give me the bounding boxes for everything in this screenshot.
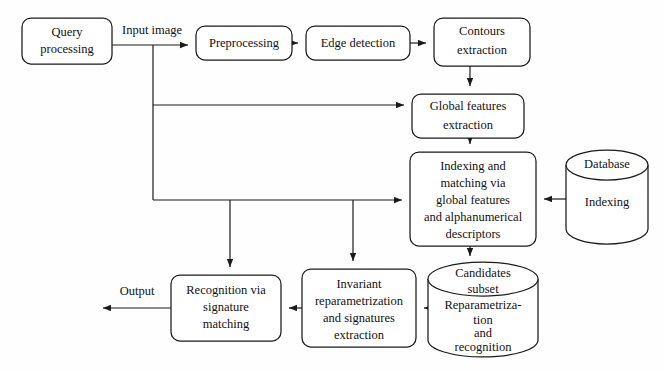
node-indexing-matching-line-0: Indexing and <box>440 159 506 173</box>
node-invariant-line-1: reparametrization <box>315 294 404 308</box>
edge-label-output: Output <box>120 284 155 298</box>
node-edge-detection-label: Edge detection <box>321 36 396 50</box>
node-indexing-matching-line-2: global features <box>436 193 510 207</box>
node-preprocessing[interactable]: Preprocessing <box>196 26 292 60</box>
node-query-processing[interactable]: Query processing <box>22 18 112 64</box>
edge-label-input-image: Input image <box>122 23 183 37</box>
node-invariant-line-2: and signatures <box>323 311 395 325</box>
node-database-indexing[interactable]: Database Indexing <box>566 150 648 244</box>
node-candidates-subset[interactable]: Candidates subset Reparametriza- tion an… <box>428 262 538 357</box>
node-indexing-matching-line-3: and alphanumerical <box>424 210 523 224</box>
node-global-features-extraction-line-1: extraction <box>443 118 494 132</box>
node-indexing-matching-line-1: matching via <box>441 176 506 190</box>
flowchart-svg: Query processing Preprocessing Edge dete… <box>0 0 663 370</box>
node-query-processing-line-0: Query <box>51 25 83 39</box>
node-recognition-line-1: signature <box>203 300 249 314</box>
node-database-body-label: Indexing <box>585 195 630 209</box>
node-recognition-line-2: matching <box>203 317 250 331</box>
node-query-processing-line-1: processing <box>40 42 94 56</box>
node-candidates-body-line-1: tion <box>473 313 493 327</box>
node-global-features-extraction[interactable]: Global features extraction <box>412 94 524 138</box>
node-candidates-body-line-2: and <box>474 326 493 340</box>
node-candidates-body-line-3: recognition <box>455 340 513 354</box>
node-preprocessing-label: Preprocessing <box>209 36 280 50</box>
node-database-top-label: Database <box>584 157 630 171</box>
node-recognition-signature-matching[interactable]: Recognition via signature matching <box>171 275 281 341</box>
node-contours-extraction-line-1: extraction <box>457 43 508 57</box>
node-global-features-extraction-line-0: Global features <box>430 99 507 113</box>
node-contours-extraction-line-0: Contours <box>459 24 505 38</box>
node-contours-extraction[interactable]: Contours extraction <box>434 18 530 66</box>
node-invariant-reparametrization[interactable]: Invariant reparametrization and signatur… <box>302 269 416 347</box>
node-indexing-matching[interactable]: Indexing and matching via global feature… <box>410 152 536 246</box>
node-invariant-line-3: extraction <box>334 328 385 342</box>
flowchart-canvas: Query processing Preprocessing Edge dete… <box>0 0 663 370</box>
node-candidates-top-line-1: subset <box>467 282 499 296</box>
node-edge-detection[interactable]: Edge detection <box>306 26 410 60</box>
node-indexing-matching-line-4: descriptors <box>446 227 501 241</box>
node-candidates-top-line-0: Candidates <box>455 266 511 280</box>
node-recognition-line-0: Recognition via <box>186 283 266 297</box>
node-invariant-line-0: Invariant <box>336 277 382 291</box>
node-candidates-body-line-0: Reparametriza- <box>444 298 521 312</box>
